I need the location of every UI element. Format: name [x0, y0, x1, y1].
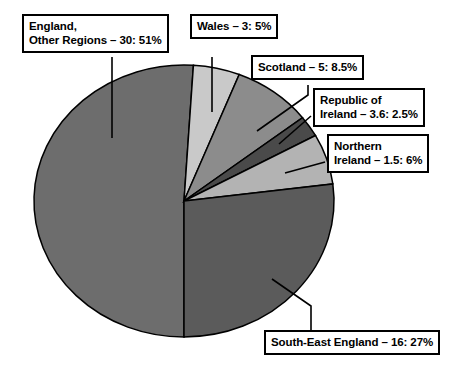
callout-scotland-line1: Scotland – 5: 8.5% [258, 60, 357, 74]
callout-wales: Wales – 3: 5% [190, 14, 278, 39]
callout-ni-line2: Ireland – 1.5: 6% [334, 153, 422, 167]
callout-ni-line1: Northern [334, 139, 422, 153]
callout-england-line1: England, [29, 19, 162, 33]
callout-wales-line1: Wales – 3: 5% [197, 19, 271, 33]
pie-chart-figure: England, Other Regions – 30: 51% Wales –… [0, 0, 476, 373]
callout-south-east-england: South-East England – 16: 27% [264, 330, 440, 355]
callout-england-line2: Other Regions – 30: 51% [29, 33, 162, 47]
callout-southeast-line1: South-East England – 16: 27% [271, 335, 433, 349]
callout-republic-of-ireland: Republic of Ireland – 3.6: 2.5% [313, 88, 425, 127]
pie-slice-england-other-regions [34, 65, 193, 337]
callout-northern-ireland: Northern Ireland – 1.5: 6% [327, 134, 429, 173]
callout-roi-line1: Republic of [320, 93, 418, 107]
callout-roi-line2: Ireland – 3.6: 2.5% [320, 107, 418, 121]
callout-england-other-regions: England, Other Regions – 30: 51% [22, 14, 169, 53]
pie-chart-graphic [0, 0, 476, 373]
callout-scotland: Scotland – 5: 8.5% [251, 55, 364, 80]
pie-slices [34, 65, 334, 337]
